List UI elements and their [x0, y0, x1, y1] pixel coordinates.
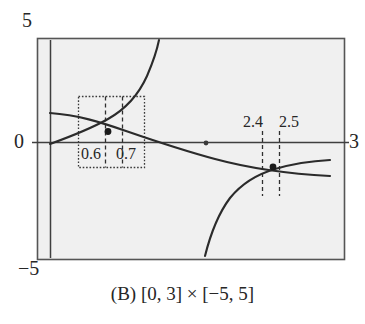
axis-label-y-min: −5	[18, 258, 39, 278]
tick-label-2-5: 2.5	[279, 114, 299, 130]
marker-intersection-right	[270, 164, 277, 171]
axis-label-y-max: 5	[22, 10, 32, 30]
marker-intersection-left	[105, 128, 112, 135]
figure-panel-b: 5 0 −5 3 0.6 0.7 2.4 2.5 (B) [0, 3] × [−…	[0, 0, 365, 324]
axis-label-y-zero: 0	[14, 131, 24, 151]
tick-label-2-4: 2.4	[243, 114, 263, 130]
axis-label-x-max: 3	[349, 131, 359, 151]
marker-intersection-mid	[204, 141, 209, 146]
plot-canvas	[0, 0, 365, 324]
figure-caption: (B) [0, 3] × [−5, 5]	[0, 283, 365, 305]
tick-label-0-7: 0.7	[116, 146, 136, 162]
tick-label-0-6: 0.6	[81, 146, 101, 162]
